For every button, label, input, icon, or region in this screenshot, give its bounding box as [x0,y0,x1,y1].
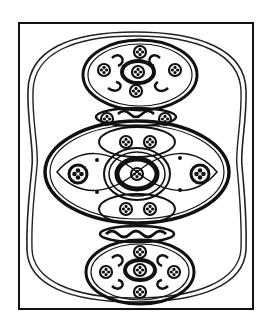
celtic-shield-illustration [0,0,271,333]
central-boss [45,121,229,224]
bottom-roundel [86,240,194,304]
top-roundel [83,40,197,110]
